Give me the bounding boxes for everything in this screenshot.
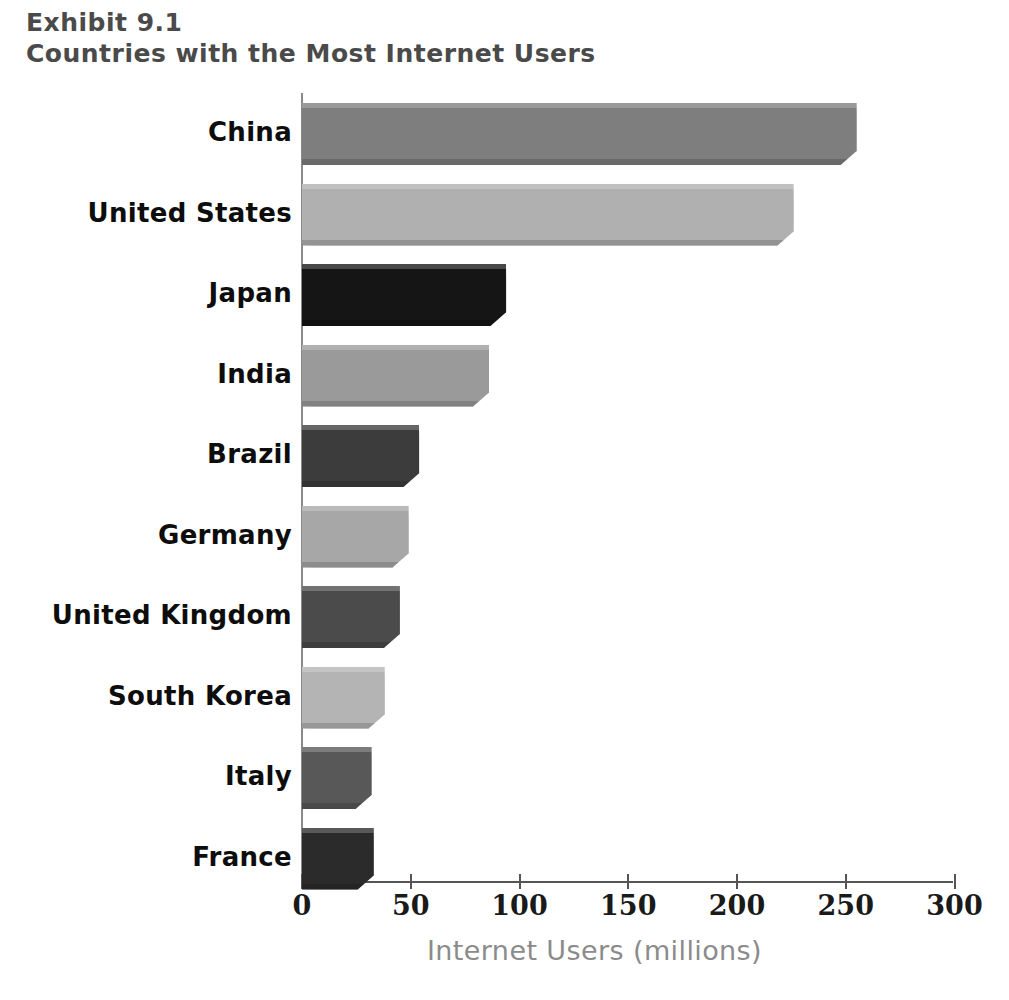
bar-france (302, 828, 374, 890)
bar-highlight (302, 184, 794, 189)
bar-shade (302, 642, 400, 648)
bar-body (302, 264, 506, 326)
x-axis-tick (954, 874, 956, 889)
bar-highlight (302, 586, 400, 591)
bar-body (302, 103, 857, 165)
category-label-japan: Japan (209, 278, 292, 308)
bar-highlight (302, 667, 385, 672)
bar-highlight (302, 747, 372, 752)
bar-united-kingdom (302, 586, 400, 648)
bar-body (302, 586, 400, 648)
x-axis-tick-label: 300 (926, 890, 982, 921)
x-axis-tick-label: 0 (293, 890, 312, 921)
bar-shade (302, 159, 857, 165)
bar-china (302, 103, 857, 165)
x-axis-tick (736, 874, 738, 889)
bar-body (302, 667, 385, 729)
category-label-germany: Germany (158, 520, 292, 550)
category-label-south-korea: South Korea (108, 681, 292, 711)
bar-highlight (302, 828, 374, 833)
x-axis-tick (627, 874, 629, 889)
bar-brazil (302, 425, 419, 487)
x-axis-tick-label: 100 (491, 890, 547, 921)
bar-germany (302, 506, 409, 568)
bar-shade (302, 240, 794, 246)
bar-south-korea (302, 667, 385, 729)
x-axis-tick-label: 50 (392, 890, 430, 921)
category-label-italy: Italy (225, 761, 292, 791)
bar-shade (302, 723, 385, 729)
bar-shade (302, 401, 489, 407)
bar-highlight (302, 264, 506, 269)
bar-highlight (302, 425, 419, 430)
bar-shade (302, 884, 374, 890)
bar-shade (302, 320, 506, 326)
x-axis-tick-label: 150 (600, 890, 656, 921)
x-axis-tick (410, 874, 412, 889)
bar-body (302, 506, 409, 568)
bar-shade (302, 481, 419, 487)
category-label-india: India (217, 359, 292, 389)
bar-highlight (302, 506, 409, 511)
bar-shade (302, 803, 372, 809)
bar-body (302, 747, 372, 809)
bar-body (302, 828, 374, 890)
bar-india (302, 345, 489, 407)
bar-highlight (302, 345, 489, 350)
bar-highlight (302, 103, 857, 108)
bar-japan (302, 264, 506, 326)
bar-body (302, 184, 794, 246)
bar-italy (302, 747, 372, 809)
x-axis-tick (519, 874, 521, 889)
chart-page: Exhibit 9.1 Countries with the Most Inte… (0, 0, 1009, 1000)
x-axis-title: Internet Users (millions) (0, 935, 1009, 966)
category-label-china: China (208, 117, 292, 147)
bar-body (302, 345, 489, 407)
bar-united-states (302, 184, 794, 246)
category-label-united-states: United States (88, 198, 292, 228)
bar-shade (302, 562, 409, 568)
plot-area: 050100150200250300 ChinaUnited StatesJap… (0, 0, 1009, 1000)
bar-body (302, 425, 419, 487)
x-axis-tick-label: 200 (709, 890, 765, 921)
category-label-brazil: Brazil (207, 439, 292, 469)
x-axis-tick-label: 250 (818, 890, 874, 921)
x-axis-tick (845, 874, 847, 889)
category-label-france: France (192, 842, 292, 872)
category-label-united-kingdom: United Kingdom (52, 600, 292, 630)
